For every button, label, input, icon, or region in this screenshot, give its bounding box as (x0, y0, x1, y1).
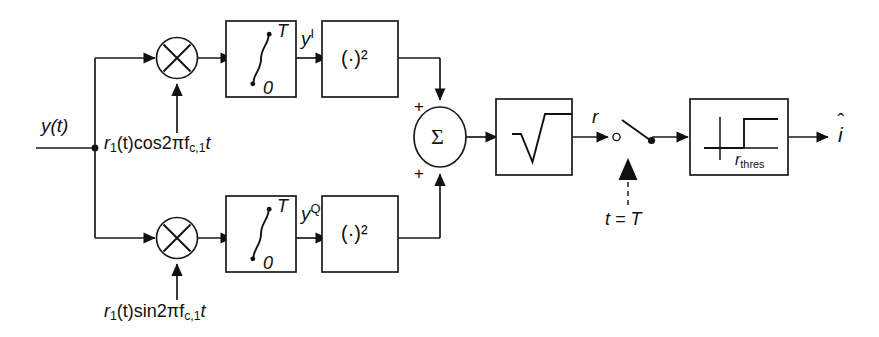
multiplier-top-group (157, 38, 233, 134)
envelope-signal-label: r (592, 107, 598, 126)
summer-plus-bottom: + (414, 165, 424, 182)
squarer-top-label: (·)² (341, 48, 368, 68)
squarer-top-group (322, 21, 440, 100)
integral-bottom-upper-limit: T (277, 197, 288, 215)
threshold-value-label: rthres (735, 152, 765, 170)
squarer-bottom-label: (·)² (341, 223, 368, 243)
output-decision-label: ˆi (838, 124, 843, 145)
bottom-carrier-reference-label: r1(t)sin2πfc,1t (104, 302, 206, 323)
sampling-instant-label: t = T (605, 210, 642, 228)
inphase-signal-label: yI (301, 28, 314, 48)
integral-top-upper-limit: T (277, 22, 288, 40)
switch-open-terminal (613, 133, 620, 140)
summer-sigma-label: Σ (431, 126, 444, 148)
squarer-bottom-group (322, 174, 440, 272)
integral-top-lower-limit: 0 (263, 79, 273, 97)
integral-bottom-lower-limit: 0 (263, 254, 273, 272)
sampling-control-arrowhead (619, 158, 638, 180)
top-carrier-reference-label: r1(t)cos2πfc,1t (104, 134, 211, 155)
switch-closed-terminal (648, 137, 655, 144)
quadrature-signal-label: yQ (301, 203, 321, 223)
block-diagram-canvas: y(t) r1(t)cos2πfc,1t r1(t)sin2πfc,1t T 0… (0, 0, 879, 337)
sampling-switch-group (613, 120, 688, 205)
multiplier-bottom-group (157, 218, 233, 301)
input-signal-label: y(t) (41, 116, 68, 135)
square-root-block (496, 99, 572, 175)
summer-plus-top: + (414, 98, 424, 115)
summing-junction-group (414, 107, 497, 167)
